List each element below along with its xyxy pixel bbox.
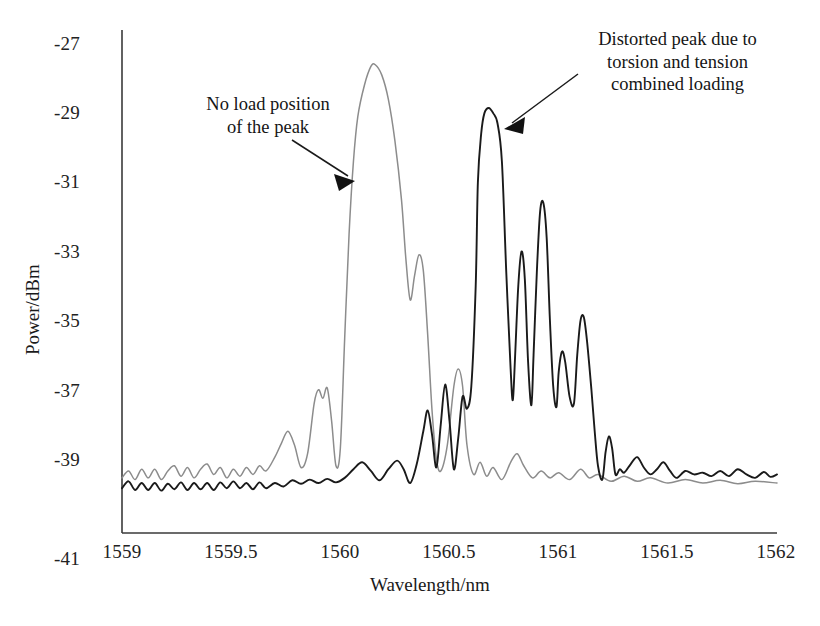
- x-tick-label: 1560: [295, 541, 385, 563]
- x-tick-label: 1559.5: [186, 541, 276, 563]
- no-load-annotation: No load position of the peak: [168, 93, 368, 138]
- x-tick-label: 1560.5: [404, 541, 494, 563]
- no-load-arrow-line: [292, 140, 348, 176]
- x-tick-label: 1561.5: [622, 541, 712, 563]
- y-tick-label: -27: [22, 33, 80, 55]
- distorted-peak-arrowhead: [504, 117, 525, 134]
- x-tick-label: 1559: [77, 541, 167, 563]
- y-tick-label: -29: [22, 102, 80, 124]
- y-tick-label: -33: [22, 241, 80, 263]
- x-tick-label: 1562: [731, 541, 820, 563]
- y-tick-label: -41: [22, 548, 80, 570]
- x-tick-label: 1561: [513, 541, 603, 563]
- y-tick-label: -39: [22, 449, 80, 471]
- distorted-peak-annotation: Distorted peak due to torsion and tensio…: [560, 28, 795, 96]
- y-tick-label: -37: [22, 380, 80, 402]
- x-axis-title: Wavelength/nm: [370, 574, 490, 596]
- y-axis-title: Power/dBm: [22, 264, 44, 355]
- spectrum-figure: -27 -29 -31 -33 -35 -37 -39 -41 1559 155…: [0, 0, 820, 626]
- y-tick-label: -31: [22, 171, 80, 193]
